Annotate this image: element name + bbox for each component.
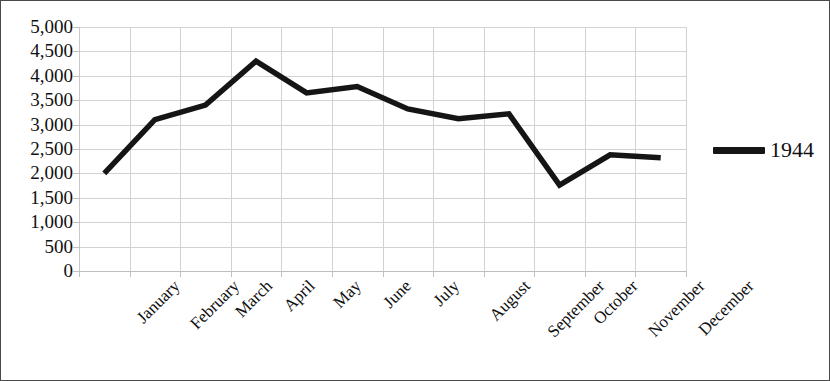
legend-label-1944: 1944 <box>770 139 814 161</box>
chart-plot-region: 05001,0001,5002,0002,5003,0003,5004,0004… <box>1 1 701 381</box>
x-axis-tick <box>585 271 586 277</box>
x-axis-tick <box>383 271 384 277</box>
x-axis-tick <box>635 271 636 277</box>
x-axis-tick <box>484 271 485 277</box>
x-axis-tick-label: April <box>281 277 318 314</box>
x-axis-tick-label: June <box>380 277 414 311</box>
x-axis-tick <box>686 271 687 277</box>
x-axis-tick <box>534 271 535 277</box>
x-axis-tick <box>281 271 282 277</box>
legend-line-swatch-icon <box>713 147 765 154</box>
x-axis-tick <box>180 271 181 277</box>
x-axis-tick-label: August <box>487 277 534 324</box>
chart-frame: 05001,0001,5002,0002,5003,0003,5004,0004… <box>0 0 830 381</box>
x-axis-tick <box>79 271 80 277</box>
x-axis-tick-label: July <box>430 277 462 309</box>
x-axis-tick <box>332 271 333 277</box>
x-axis-tick-label: May <box>330 277 364 311</box>
x-axis-labels: JanuaryFebruaryMarchAprilMayJuneJulyAugu… <box>1 1 701 381</box>
x-axis-tick-label: March <box>232 277 275 320</box>
x-axis-tick-label: January <box>134 277 183 326</box>
x-axis-tick <box>130 271 131 277</box>
chart-legend: 1944 <box>713 139 814 161</box>
x-axis-tick <box>433 271 434 277</box>
x-axis-tick <box>231 271 232 277</box>
